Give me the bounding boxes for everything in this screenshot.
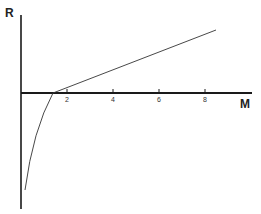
curve-upper-line [53,30,216,93]
chart: 2 4 6 8 R M [0,0,261,214]
curve-lower-branch [25,93,53,190]
x-tick-label: 4 [111,96,115,103]
y-axis-label: R [5,6,14,20]
x-tick-label: 6 [157,96,161,103]
x-tick-label: 8 [203,96,207,103]
x-axis-label: M [240,97,250,111]
x-tick-label: 2 [65,96,69,103]
